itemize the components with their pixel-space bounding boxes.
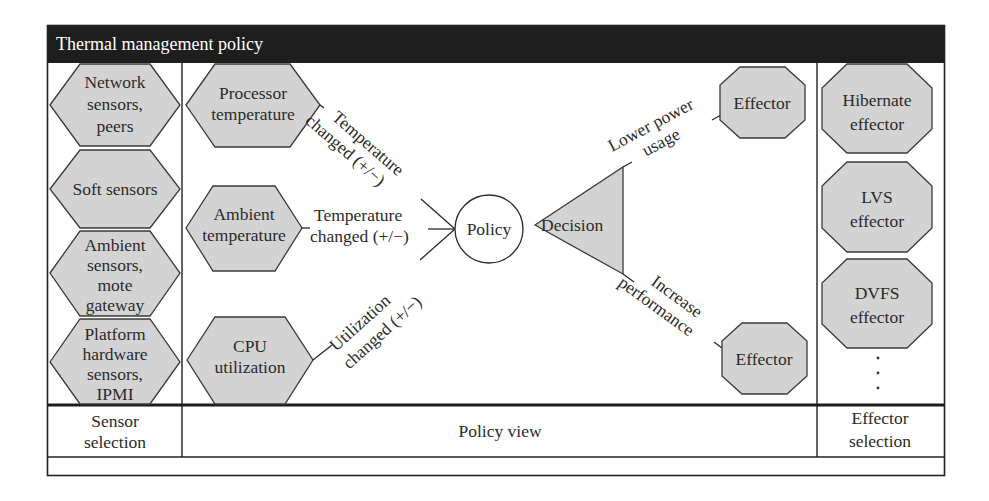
header-bar: Thermal management policy bbox=[47, 25, 945, 63]
diagram-title: Thermal management policy bbox=[56, 34, 263, 54]
sensor-selection-column: Network sensors, peers Soft sensors Ambi… bbox=[50, 64, 180, 452]
svg-text:effector: effector bbox=[850, 114, 904, 134]
thermal-policy-diagram: Thermal management policy Network sensor… bbox=[0, 0, 989, 501]
effector-dvfs[interactable]: DVFS effector bbox=[822, 259, 932, 348]
edge-label-ambient-temp: Temperature changed (+/−) bbox=[310, 205, 409, 246]
sensor-platform-hardware-ipmi[interactable]: Platform hardware sensors, IPMI bbox=[50, 319, 180, 404]
svg-text:utilization: utilization bbox=[215, 357, 286, 377]
svg-text:changed (+/−): changed (+/−) bbox=[310, 226, 409, 246]
input-ambient-temperature[interactable]: Ambient temperature bbox=[186, 186, 302, 271]
svg-text:Policy: Policy bbox=[467, 219, 512, 239]
svg-text:Soft sensors: Soft sensors bbox=[72, 179, 157, 199]
sensor-network-peers[interactable]: Network sensors, peers bbox=[50, 64, 180, 146]
effector-node-increase-performance[interactable]: Effector bbox=[722, 323, 807, 394]
edge-label-cpu-utilization: Utilization changed (+/−) bbox=[324, 275, 426, 373]
policy-view-label: Policy view bbox=[458, 421, 541, 441]
input-cpu-utilization[interactable]: CPU utilization bbox=[187, 317, 313, 404]
svg-text:Effector: Effector bbox=[735, 349, 792, 369]
input-processor-temperature[interactable]: Processor temperature bbox=[186, 64, 320, 147]
sensor-selection-label: Sensor bbox=[91, 411, 139, 431]
policy-node[interactable]: Policy bbox=[455, 195, 523, 263]
effector-selection-label: Effector bbox=[851, 408, 908, 428]
edge-label-increase-performance: Increase performance bbox=[615, 256, 710, 340]
svg-text:LVS: LVS bbox=[861, 187, 892, 207]
effector-node-lower-power[interactable]: Effector bbox=[720, 67, 805, 138]
svg-text:Ambient: Ambient bbox=[84, 235, 145, 255]
svg-text:Temperature: Temperature bbox=[314, 205, 402, 225]
effector-selection-column: Hibernate effector LVS effector DVFS eff… bbox=[822, 64, 932, 451]
svg-text:Platform: Platform bbox=[84, 324, 146, 344]
svg-text:effector: effector bbox=[850, 307, 904, 327]
svg-text:Network: Network bbox=[84, 72, 145, 92]
svg-text:temperature: temperature bbox=[202, 225, 286, 245]
svg-text:Decision: Decision bbox=[541, 215, 603, 235]
sensor-soft-sensors[interactable]: Soft sensors bbox=[50, 150, 180, 228]
edge-label-lower-power: Lower power usage bbox=[604, 94, 706, 173]
svg-text:hardware: hardware bbox=[82, 344, 147, 364]
more-effectors-ellipsis bbox=[877, 357, 880, 390]
effector-selection-label-2: selection bbox=[849, 431, 911, 451]
effector-hibernate[interactable]: Hibernate effector bbox=[822, 64, 932, 153]
policy-view: Processor temperature Ambient temperatur… bbox=[186, 64, 807, 441]
svg-text:peers: peers bbox=[97, 116, 134, 136]
svg-text:sensors,: sensors, bbox=[87, 364, 143, 384]
svg-text:sensors,: sensors, bbox=[87, 255, 143, 275]
svg-text:Effector: Effector bbox=[733, 93, 790, 113]
svg-text:effector: effector bbox=[850, 211, 904, 231]
svg-text:gateway: gateway bbox=[86, 295, 145, 315]
sensor-selection-label-2: selection bbox=[84, 432, 146, 452]
edge-label-processor-temp: Temperature changed (+/−) bbox=[302, 95, 409, 195]
sensor-ambient-mote-gateway[interactable]: Ambient sensors, mote gateway bbox=[50, 231, 180, 316]
svg-text:temperature: temperature bbox=[211, 104, 295, 124]
svg-text:mote: mote bbox=[98, 275, 133, 295]
effector-lvs[interactable]: LVS effector bbox=[822, 162, 932, 252]
svg-text:DVFS: DVFS bbox=[855, 283, 900, 303]
svg-text:sensors,: sensors, bbox=[87, 94, 143, 114]
svg-text:Hibernate: Hibernate bbox=[843, 90, 912, 110]
svg-text:Ambient: Ambient bbox=[213, 204, 274, 224]
svg-text:IPMI: IPMI bbox=[97, 384, 134, 404]
svg-text:CPU: CPU bbox=[233, 336, 267, 356]
svg-text:Processor: Processor bbox=[219, 83, 287, 103]
decision-node[interactable]: Decision bbox=[535, 167, 623, 274]
